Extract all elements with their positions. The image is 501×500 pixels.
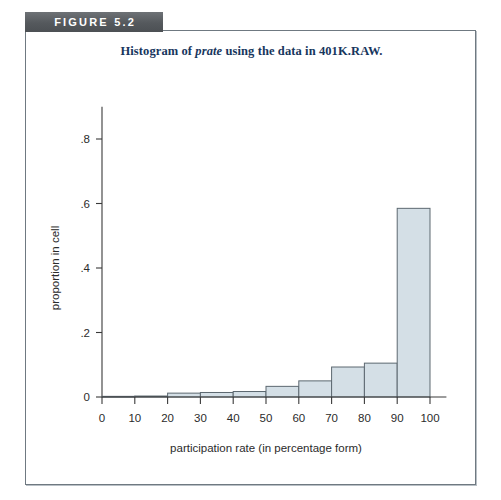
histogram-bar (168, 393, 201, 397)
histogram-bar (266, 386, 299, 397)
histogram-bar (397, 208, 430, 397)
x-tick-label: 90 (391, 412, 404, 424)
y-axis-title: proportion in cell (49, 226, 61, 310)
histogram-bar (364, 363, 397, 397)
x-axis-title: participation rate (in percentage form) (170, 442, 362, 454)
x-tick-label: 100 (420, 412, 439, 424)
x-tick-label: 30 (194, 412, 207, 424)
x-tick-label: 10 (128, 412, 141, 424)
histogram-bar (299, 381, 332, 397)
y-tick-label: 0 (84, 391, 90, 403)
x-tick-label: 20 (161, 412, 174, 424)
x-tick-label: 80 (358, 412, 371, 424)
y-tick-label: .8 (80, 133, 90, 145)
y-tick-label: .6 (80, 198, 90, 210)
x-tick-label: 50 (260, 412, 273, 424)
y-tick-label: .2 (80, 327, 90, 339)
x-tick-label: 60 (292, 412, 305, 424)
histogram-svg: 0.2.4.6.8proportion in cell0102030405060… (26, 31, 477, 486)
figure-frame: Histogram of prate using the data in 401… (25, 30, 476, 485)
figure-container: FIGURE 5.2 Histogram of prate using the … (0, 0, 501, 500)
histogram-plot: 0.2.4.6.8proportion in cell0102030405060… (26, 31, 477, 486)
figure-number-tab: FIGURE 5.2 (25, 12, 163, 32)
histogram-bar (332, 367, 365, 397)
figure-number-label: FIGURE 5.2 (52, 16, 136, 28)
histogram-bar (200, 392, 233, 397)
histogram-bar (233, 392, 266, 397)
x-tick-label: 0 (99, 412, 105, 424)
x-tick-label: 70 (325, 412, 338, 424)
x-tick-label: 40 (227, 412, 240, 424)
y-tick-label: .4 (80, 262, 90, 274)
